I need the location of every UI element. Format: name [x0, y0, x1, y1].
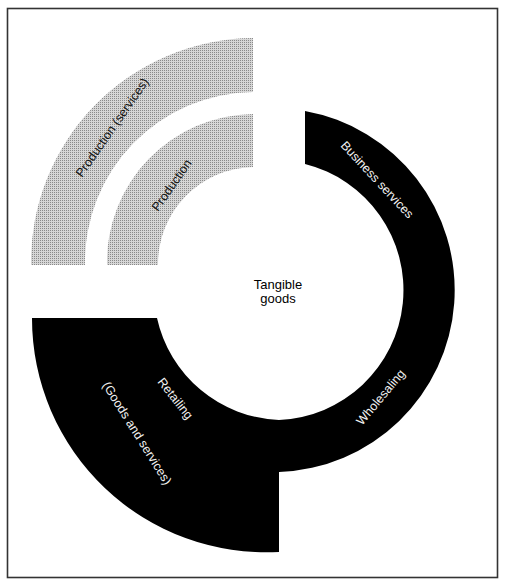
tangible-goods-diagram: Production (services) Production Busines…	[0, 0, 508, 583]
center-label-line2: goods	[260, 291, 296, 306]
center-label-line1: Tangible	[254, 277, 302, 292]
